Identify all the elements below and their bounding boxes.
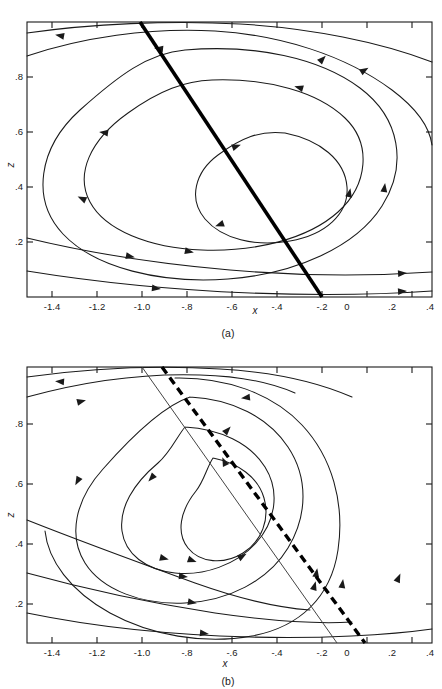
xtick-label: -.4: [271, 301, 282, 312]
panel-b-container: -1.4 -1.2 -1.0 -.8 -.6 -.4 -.2 0 .2 .4 .…: [0, 345, 442, 689]
streamlines-b: [27, 367, 432, 639]
heavy-nullcline-a: [140, 22, 322, 297]
panel-a-container: -1.4 -1.2 -1.0 -.8 -.6 -.4 -.2 0 .2 .4 .…: [0, 0, 442, 345]
yaxis-ticklabels-b: .8 .6 .4 .2: [15, 418, 23, 609]
xtick-label: -1.4: [44, 647, 60, 658]
xtick-label: .4: [426, 647, 434, 658]
ytick-label: .6: [15, 126, 23, 137]
ytick-label: .4: [15, 181, 23, 192]
ytick-label: .8: [15, 71, 23, 82]
ytick-label: .2: [15, 236, 23, 247]
xtick-label: -.8: [181, 301, 192, 312]
xtick-label: 0: [344, 647, 349, 658]
yaxis-title-a: z: [5, 163, 16, 169]
xaxis-ticklabels-b: -1.4 -1.2 -1.0 -.8 -.6 -.4 -.2 0 .2 .4: [44, 647, 434, 658]
panel-label-b: (b): [222, 675, 235, 687]
xtick-label: .2: [388, 647, 396, 658]
xtick-label: -.8: [181, 647, 192, 658]
ytick-label: .2: [15, 598, 23, 609]
xtick-label: -.2: [316, 647, 327, 658]
xtick-label: -1.0: [134, 301, 150, 312]
stream-arrows-b: [55, 378, 404, 638]
xtick-label: -1.2: [89, 301, 105, 312]
xaxis-ticks-b: [52, 367, 412, 643]
xaxis-title-a: x: [252, 305, 259, 316]
xtick-label: -.6: [226, 301, 237, 312]
plot-frame-b: [27, 367, 432, 643]
xtick-label: -1.0: [134, 647, 150, 658]
yaxis-ticklabels-a: .8 .6 .4 .2: [15, 71, 23, 247]
ytick-label: .4: [15, 538, 23, 549]
yaxis-title-b: z: [5, 513, 16, 519]
xtick-label: -.2: [316, 301, 327, 312]
xtick-label: -1.4: [44, 301, 60, 312]
xtick-label: .2: [388, 301, 396, 312]
panel-a-plot: -1.4 -1.2 -1.0 -.8 -.6 -.4 -.2 0 .2 .4 .…: [0, 0, 442, 345]
xtick-label: 0: [344, 301, 349, 312]
stream-arrows-a: [55, 31, 408, 295]
xtick-label: -.4: [271, 647, 282, 658]
xtick-label: -1.2: [89, 647, 105, 658]
xaxis-title-b: x: [222, 658, 229, 669]
panel-b-plot: -1.4 -1.2 -1.0 -.8 -.6 -.4 -.2 0 .2 .4 .…: [0, 345, 442, 689]
yaxis-ticks-b: [27, 424, 432, 604]
panel-label-a: (a): [222, 327, 235, 339]
xaxis-ticklabels-a: -1.4 -1.2 -1.0 -.8 -.6 -.4 -.2 0 .2 .4: [44, 301, 434, 312]
xtick-label: .4: [426, 301, 434, 312]
ytick-label: .6: [15, 478, 23, 489]
ytick-label: .8: [15, 418, 23, 429]
xtick-label: -.6: [226, 647, 237, 658]
